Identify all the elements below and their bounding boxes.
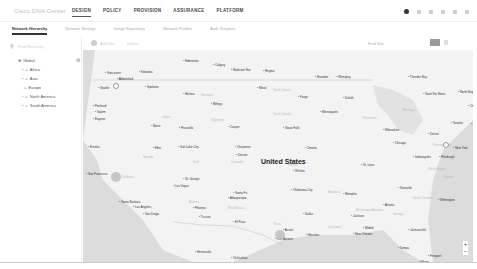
city-label: • Elko <box>153 146 161 150</box>
tree-item-asia[interactable]: ›⌂Asia <box>18 74 56 83</box>
state-label: North Dakota <box>273 88 291 92</box>
tree-item-global[interactable]: ⊕Global <box>18 56 56 65</box>
notification-icon[interactable] <box>404 9 409 14</box>
state-label: South Dakota <box>273 112 291 116</box>
city-label: • Atlanta <box>383 203 394 207</box>
state-label: Wyoming <box>211 118 223 122</box>
city-label: • Oklahoma City <box>291 188 313 192</box>
secondary-nav: Network Hierarchy Network Settings Image… <box>0 22 477 35</box>
state-label: Mississippi Alabama <box>356 208 383 212</box>
zoom-control: + − <box>462 240 469 256</box>
nav-tab-platform[interactable]: PLATFORM <box>217 8 244 13</box>
add-site-button[interactable]: Add Site <box>91 40 115 46</box>
city-label: • Brandon <box>315 75 328 79</box>
city-label: • Edmonton <box>183 59 199 63</box>
city-label: • Calgary <box>213 63 225 67</box>
expand-icon[interactable]: › <box>22 76 23 81</box>
state-label: New Mexico <box>228 206 244 210</box>
area-icon: ⌂ <box>24 85 26 90</box>
state-label: Utah <box>193 160 199 164</box>
map-view-toggle[interactable] <box>430 39 440 46</box>
city-label: • Seattle <box>98 86 109 90</box>
user-icon[interactable] <box>465 10 469 14</box>
app-frame: Cisco DNA Center DESIGN POLICY PROVISION… <box>0 0 477 269</box>
city-label: • Wilmington <box>438 198 455 202</box>
site-pin-icon[interactable] <box>113 83 119 89</box>
state-label: Louisiana <box>328 225 341 229</box>
gear-icon[interactable]: ⚙ <box>76 57 80 63</box>
city-label: • Indianapolis <box>413 155 431 159</box>
nav-tab-assurance[interactable]: ASSURANCE <box>173 8 204 13</box>
subtab-network-settings[interactable]: Network Settings <box>65 26 95 31</box>
zoom-out-button[interactable]: − <box>464 249 467 254</box>
expand-icon[interactable]: › <box>22 94 23 99</box>
apps-icon[interactable] <box>429 10 433 14</box>
city-label: • Jackson <box>351 214 364 218</box>
city-label: • San Francisco <box>86 172 107 176</box>
city-label: • Toronto <box>451 121 463 125</box>
delete-button[interactable]: Delete <box>127 41 139 46</box>
city-label: • San Diego <box>143 212 159 216</box>
city-label: • Portland <box>93 104 106 108</box>
city-label: • New York <box>453 146 468 150</box>
city-label: • North Bay <box>458 90 473 94</box>
subtab-network-hierarchy[interactable]: Network Hierarchy <box>12 26 47 31</box>
site-tree: ⊕Global ›⌂Africa ›⌂Asia ⌂Europe ›⌂North … <box>18 56 56 110</box>
city-label: • Detroit <box>428 132 439 136</box>
tree-item-south-america[interactable]: ›⌂South America <box>18 101 56 110</box>
expand-icon[interactable]: › <box>22 103 23 108</box>
city-label: • Tampa <box>398 246 409 250</box>
site-pin-icon[interactable] <box>443 142 449 148</box>
state-label: Texas <box>273 222 281 226</box>
country-label: United States <box>261 158 306 165</box>
area-icon: ⌂ <box>25 94 27 99</box>
city-label: • Wichita <box>293 169 305 173</box>
city-label: • Milwaukee <box>383 128 399 132</box>
top-nav-bar: Cisco DNA Center DESIGN POLICY PROVISION… <box>0 0 477 22</box>
city-label: • Spokane <box>145 85 159 89</box>
city-label: • Casper <box>228 125 240 129</box>
area-icon: ⌂ <box>25 67 27 72</box>
area-icon: ⌂ <box>25 76 27 81</box>
search-placeholder[interactable]: Find Hierarchy <box>18 44 44 49</box>
site-map[interactable]: MontanaNorth DakotaSouth DakotaWisconsin… <box>83 50 473 262</box>
subtab-image-repository[interactable]: Image Repository <box>114 26 145 31</box>
search-icon[interactable] <box>417 10 421 14</box>
zoom-in-button[interactable]: + <box>464 242 467 247</box>
hierarchy-sidebar: ⚲ Find Hierarchy ⊕Global ›⌂Africa ›⌂Asia… <box>0 36 82 269</box>
tree-item-africa[interactable]: ›⌂Africa <box>18 65 56 74</box>
city-label: • Chicago <box>393 141 406 145</box>
city-label: • Sioux Falls <box>283 126 300 130</box>
city-label: • Regina <box>263 69 274 73</box>
city-label: • Santa Barbara <box>119 200 140 204</box>
state-label: Arkansas <box>328 190 341 194</box>
brand-logo[interactable]: Cisco DNA Center <box>14 8 66 14</box>
tools-icon[interactable] <box>441 10 445 14</box>
city-label: • Sault Ste Marie <box>423 92 445 96</box>
city-label: • Phoenix <box>193 206 206 210</box>
nav-tab-policy[interactable]: POLICY <box>103 8 122 13</box>
filter-icon: ⚲ <box>10 43 14 49</box>
subtab-auth-template[interactable]: Auth Template <box>210 26 236 31</box>
list-view-toggle[interactable] <box>444 40 448 45</box>
help-icon[interactable] <box>453 10 457 14</box>
hierarchy-search[interactable]: ⚲ Find Hierarchy <box>10 43 44 49</box>
state-label: Nevada <box>143 155 153 159</box>
city-label: • Cheyenne <box>235 145 251 149</box>
site-filter-input[interactable]: Find Site <box>368 41 384 46</box>
subtab-network-profiles[interactable]: Network Profiles <box>163 26 192 31</box>
city-label: • Mobile <box>363 226 374 230</box>
city-label: • Helena <box>183 92 194 96</box>
nav-tab-design[interactable]: DESIGN <box>72 8 91 13</box>
expand-icon[interactable]: › <box>22 67 23 72</box>
site-cluster-marker[interactable] <box>275 230 285 240</box>
city-label: • Albuquerque <box>228 196 247 200</box>
nav-tab-provision[interactable]: PROVISION <box>134 8 162 13</box>
state-label: South Carolina <box>413 196 433 200</box>
city-label: • Abbotsford <box>117 77 133 81</box>
tree-item-north-america[interactable]: ›⌂North America <box>18 92 56 101</box>
state-label: Virginia <box>443 175 453 179</box>
city-label: • Denver <box>236 153 248 157</box>
tree-item-europe[interactable]: ⌂Europe <box>18 83 56 92</box>
site-cluster-marker[interactable] <box>111 172 121 182</box>
